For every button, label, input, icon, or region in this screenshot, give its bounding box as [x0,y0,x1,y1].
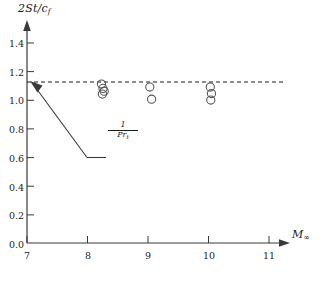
y-axis-ticks [27,43,34,215]
plot-area [0,0,328,282]
chart-figure: 2St/cf M∞ 1.4 1.2 1.0 0.8 0.6 0.4 0.2 0.… [0,0,328,282]
y-axis [23,20,31,243]
x-axis-ticks [27,236,269,243]
data-point [98,90,106,98]
data-point [100,87,108,95]
data-point [148,95,156,103]
data-series-markers [97,80,215,104]
data-point [146,83,154,91]
x-axis [27,239,290,247]
annotation-arrow [30,81,106,158]
